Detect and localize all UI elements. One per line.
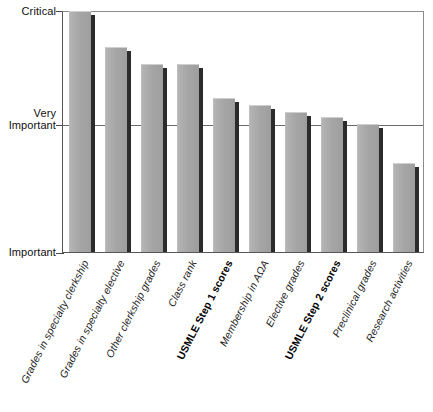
y-axis-label-important: Important	[9, 246, 56, 258]
bar	[213, 98, 235, 252]
x-axis-category-labels: Grades in specialty clerkshipGrades in s…	[62, 256, 424, 406]
x-label-slot: Membership in AΩA	[244, 256, 280, 406]
figure-caption	[0, 404, 433, 412]
x-axis-label: Grades in specialty clerkship	[18, 258, 91, 385]
bar	[285, 112, 307, 252]
y-axis-tick-important	[56, 253, 64, 254]
plot-area	[62, 11, 424, 253]
bar	[321, 117, 343, 252]
bar-chart-figure: Critical Very Important Important Grades…	[0, 0, 433, 412]
bar	[357, 124, 379, 252]
bar	[141, 64, 163, 252]
bar-series	[63, 12, 423, 252]
y-axis-label-critical: Critical	[22, 5, 56, 17]
x-label-slot: Other clerkship grades	[136, 256, 172, 406]
x-label-slot: Research activities	[388, 256, 424, 406]
bar	[69, 11, 91, 252]
bar	[249, 105, 271, 252]
bar	[177, 64, 199, 252]
bar	[105, 47, 127, 252]
bar	[393, 163, 415, 252]
y-axis-label-very-important: Very Important	[9, 107, 56, 131]
